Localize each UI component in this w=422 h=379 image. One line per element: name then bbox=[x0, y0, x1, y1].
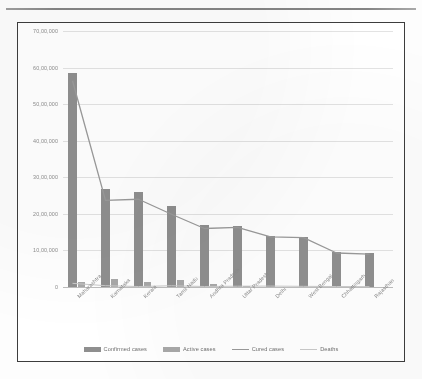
bar-confirmed-cases bbox=[299, 237, 309, 287]
bar-confirmed-cases bbox=[68, 73, 78, 287]
legend-label: Cured cases bbox=[252, 346, 285, 352]
page-top-rule bbox=[6, 8, 416, 10]
y-axis-tick-label: 50,00,000 bbox=[33, 101, 58, 107]
bar-category-group bbox=[294, 31, 327, 287]
bar-confirmed-cases bbox=[365, 253, 375, 287]
bar-confirmed-cases bbox=[200, 225, 210, 287]
bar-category-group bbox=[228, 31, 261, 287]
plot-canvas: 010,00,00020,00,00030,00,00040,00,00050,… bbox=[63, 31, 393, 287]
bar-confirmed-cases bbox=[233, 226, 243, 287]
y-axis-tick-label: 10,00,000 bbox=[33, 247, 58, 253]
bar-category-group bbox=[360, 31, 393, 287]
legend-swatch-icon bbox=[163, 347, 180, 352]
bar-category-group bbox=[162, 31, 195, 287]
bar-confirmed-cases bbox=[266, 236, 276, 287]
bar-confirmed-cases bbox=[134, 192, 144, 287]
bar-category-group bbox=[195, 31, 228, 287]
legend-item[interactable]: Confirmed cases bbox=[84, 346, 147, 352]
legend-label: Confirmed cases bbox=[104, 346, 147, 352]
y-axis-tick-label: 40,00,000 bbox=[33, 138, 58, 144]
legend-label: Active cases bbox=[183, 346, 216, 352]
legend-item[interactable]: Cured cases bbox=[232, 346, 285, 352]
scanned-page: 010,00,00020,00,00030,00,00040,00,00050,… bbox=[0, 0, 422, 379]
bar-category-group bbox=[327, 31, 360, 287]
bar-category-group bbox=[96, 31, 129, 287]
legend-item[interactable]: Active cases bbox=[163, 346, 216, 352]
bar-category-group bbox=[63, 31, 96, 287]
legend-line-icon bbox=[232, 349, 249, 350]
y-axis-tick-label: 60,00,000 bbox=[33, 65, 58, 71]
axis-baseline bbox=[63, 287, 393, 288]
bar-category-group bbox=[261, 31, 294, 287]
bar-confirmed-cases bbox=[332, 252, 342, 287]
chart-frame: 010,00,00020,00,00030,00,00040,00,00050,… bbox=[17, 22, 405, 362]
y-axis-tick-label: 0 bbox=[55, 284, 58, 290]
y-axis-tick-label: 20,00,000 bbox=[33, 211, 58, 217]
y-axis-tick-label: 30,00,000 bbox=[33, 174, 58, 180]
chart-legend: Confirmed casesActive casesCured casesDe… bbox=[18, 346, 404, 352]
bar-group bbox=[63, 31, 393, 287]
bar-category-group bbox=[129, 31, 162, 287]
legend-item[interactable]: Deaths bbox=[300, 346, 338, 352]
legend-label: Deaths bbox=[320, 346, 338, 352]
bar-confirmed-cases bbox=[167, 206, 177, 287]
bar-confirmed-cases bbox=[101, 189, 111, 287]
legend-swatch-icon bbox=[84, 347, 101, 352]
y-axis-tick-label: 70,00,000 bbox=[33, 28, 58, 34]
legend-line-icon bbox=[300, 349, 317, 350]
chart-plot-area: 010,00,00020,00,00030,00,00040,00,00050,… bbox=[18, 23, 404, 361]
